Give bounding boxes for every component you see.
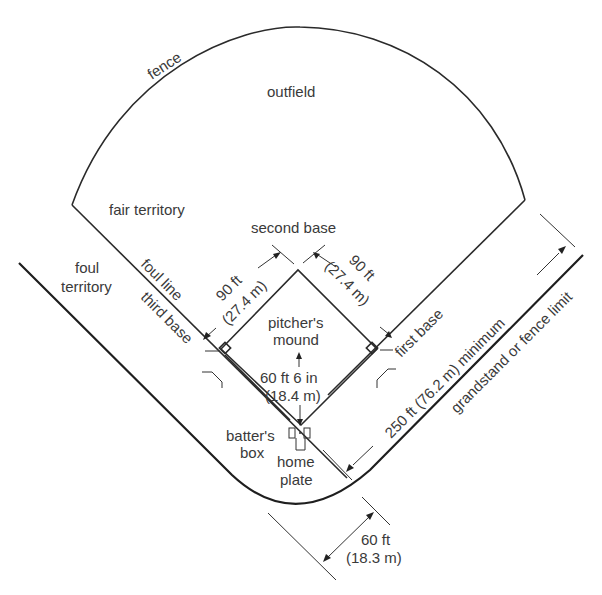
dim-250-line-bottom (353, 446, 373, 465)
dim-250-tick-top (540, 214, 575, 247)
arrow-up-icon (296, 352, 302, 359)
backstop-ft: 60 ft (361, 531, 391, 548)
backstop-m: (18.3 m) (346, 549, 402, 566)
second-base-label: second base (251, 219, 336, 236)
fence-outline (72, 27, 525, 205)
home-plate-label-1: home (277, 453, 315, 470)
pitch-distance-ft: 60 ft 6 in (260, 369, 318, 386)
arrow-icon (273, 252, 281, 259)
pitchers-mound-label-2: mound (273, 331, 319, 348)
catchers-box (296, 438, 305, 450)
batters-box-label-1: batter's (226, 427, 275, 444)
coach-box-right (377, 369, 396, 388)
coach-box-left (202, 372, 222, 388)
pitchers-mound-label-1: pitcher's (268, 314, 323, 331)
arrow-icon (346, 464, 354, 472)
batters-box-label-2: box (240, 444, 265, 461)
dim-60-tick-left (268, 513, 336, 580)
dimline-left-upper (258, 255, 276, 268)
pitch-distance-m: (18.4 m) (265, 387, 321, 404)
home-plate-label-2: plate (280, 471, 313, 488)
third-base-label: third base (138, 288, 197, 347)
dim-250-line-top (537, 253, 559, 275)
fair-territory-label: fair territory (109, 201, 185, 218)
foul-territory-label-2: territory (61, 278, 112, 295)
dim-60-tick-right (362, 497, 390, 525)
outfield-label: outfield (267, 83, 315, 100)
foul-territory-label-1: foul (75, 259, 99, 276)
baseball-field-diagram: fence outfield fair territory foul terri… (0, 0, 602, 595)
batters-box-left (289, 428, 295, 438)
first-base-label: first base (391, 305, 446, 360)
dim-250-tick-bottom (323, 450, 352, 480)
arrow-icon (558, 246, 566, 254)
home-plate-dot (299, 432, 301, 434)
